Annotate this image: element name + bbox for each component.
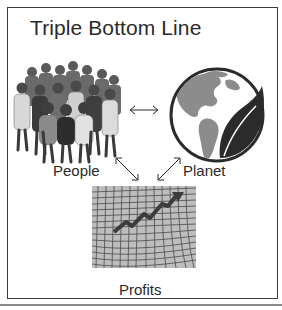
planet-label: Planet: [183, 162, 226, 179]
rising-chart-grid-icon: [92, 186, 196, 268]
people-profits-double-arrow-icon: [114, 156, 140, 182]
planet-profits-double-arrow-icon: [156, 156, 182, 182]
people-planet-double-arrow-icon: [128, 104, 160, 116]
globe-with-leaf-icon: [168, 66, 266, 164]
diagram-title: Triple Bottom Line: [30, 16, 201, 40]
profits-label: Profits: [119, 281, 162, 298]
bottom-divider: [0, 304, 282, 306]
group-of-people-icon: [10, 58, 128, 166]
people-label: People: [53, 162, 100, 179]
